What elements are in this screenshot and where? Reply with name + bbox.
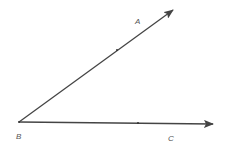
angle-diagram: A B C bbox=[0, 0, 225, 150]
vertex-point-b bbox=[18, 121, 20, 123]
tick-mark-ba bbox=[116, 49, 118, 51]
ray-bc bbox=[19, 122, 213, 124]
label-c: C bbox=[168, 134, 174, 143]
label-a: A bbox=[134, 17, 140, 26]
ray-ba bbox=[19, 10, 173, 122]
label-b: B bbox=[16, 132, 22, 141]
tick-mark-bc bbox=[137, 122, 139, 124]
